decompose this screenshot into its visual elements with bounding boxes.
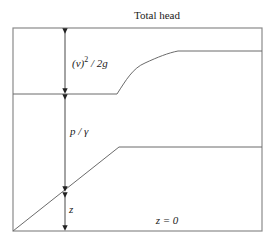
datum-label: z = 0 [155,214,179,226]
elevation-head-label: z [68,203,74,215]
diagram-title: Total head [134,9,180,21]
elevation-line [13,147,262,231]
total-head-frame [13,28,262,231]
energy-head-diagram: Total head (v)2 / 2g p / γ z z = 0 [0,0,274,244]
hydraulic-grade-line [13,51,262,94]
velocity-head-label: (v)2 / 2g [72,55,108,70]
pressure-head-label: p / γ [69,125,89,137]
